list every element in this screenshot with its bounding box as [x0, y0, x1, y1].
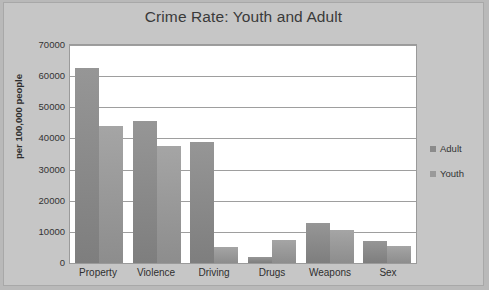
x-axis-category-labels: PropertyViolenceDrivingDrugsWeaponsSex [69, 267, 417, 278]
y-axis-tick-label: 20000 [18, 194, 65, 205]
legend-label-youth: Youth [440, 168, 464, 179]
bar-drugs-youth[interactable] [272, 240, 296, 263]
y-axis-tick-label: 50000 [18, 101, 65, 112]
chart-container: Crime Rate: Youth and Adult per 100,000 … [3, 2, 484, 286]
bar-driving-youth[interactable] [214, 247, 238, 263]
bar-drugs-adult[interactable] [248, 257, 272, 263]
x-axis-label-violence: Violence [127, 267, 185, 278]
x-axis-label-sex: Sex [359, 267, 417, 278]
x-axis-label-weapons: Weapons [301, 267, 359, 278]
legend-entry-youth[interactable]: Youth [430, 168, 486, 179]
bar-group [70, 45, 128, 263]
bar-group [185, 45, 243, 263]
plot-area [69, 44, 417, 264]
y-axis-tick-label: 0 [18, 257, 65, 268]
bar-weapons-youth[interactable] [330, 230, 354, 263]
bar-group [358, 45, 416, 263]
y-axis-tick-label: 40000 [18, 132, 65, 143]
bar-property-adult[interactable] [75, 68, 99, 263]
y-axis-tick-label: 30000 [18, 163, 65, 174]
x-axis-label-property: Property [69, 267, 127, 278]
y-axis-tick-label: 70000 [18, 39, 65, 50]
bar-weapons-adult[interactable] [306, 223, 330, 263]
bars-layer [70, 45, 416, 263]
bar-group [243, 45, 301, 263]
legend-label-adult: Adult [440, 143, 462, 154]
legend-swatch-icon-youth [430, 171, 436, 177]
bar-sex-adult[interactable] [363, 241, 387, 263]
bar-property-youth[interactable] [99, 126, 123, 263]
x-axis-label-driving: Driving [185, 267, 243, 278]
chart-title: Crime Rate: Youth and Adult [4, 8, 483, 26]
legend-swatch-icon-adult [430, 146, 436, 152]
bar-group [301, 45, 359, 263]
legend-entry-adult[interactable]: Adult [430, 143, 486, 154]
bar-sex-youth[interactable] [387, 246, 411, 263]
bar-violence-youth[interactable] [157, 146, 181, 263]
chart-legend: AdultYouth [430, 143, 486, 193]
x-axis-label-drugs: Drugs [243, 267, 301, 278]
bar-group [128, 45, 186, 263]
y-axis-tick-label: 60000 [18, 70, 65, 81]
bar-violence-adult[interactable] [133, 121, 157, 263]
y-axis-tick-label: 10000 [18, 225, 65, 236]
bar-driving-adult[interactable] [190, 142, 214, 263]
y-axis-tick-labels: 700006000050000400003000020000100000 [18, 42, 65, 266]
